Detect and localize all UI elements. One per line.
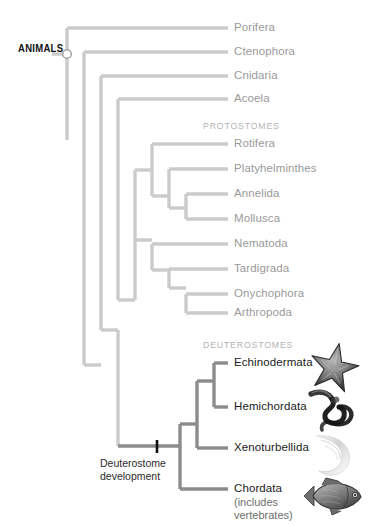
event-label-deuterostome-development-line2: development	[100, 470, 160, 483]
group-header-protostomes: PROTOSTOMES	[203, 121, 280, 131]
taxon-label-nematoda: Nematoda	[234, 237, 288, 249]
taxon-label-onychophora: Onychophora	[234, 287, 304, 299]
taxon-label-xenoturbellida: Xenoturbellida	[234, 441, 309, 453]
taxon-label-rotifera: Rotifera	[234, 137, 275, 149]
taxon-label-acoela: Acoela	[234, 92, 270, 104]
phylogenetic-tree-figure: ANIMALS PROTOSTOMES DEUTEROSTOMES Porife…	[0, 0, 370, 526]
taxon-sublabel-chordata-line1: (includes	[234, 496, 278, 509]
group-header-deuterostomes: DEUTEROSTOMES	[203, 340, 293, 350]
taxon-sublabel-chordata-line2: vertebrates)	[234, 509, 293, 522]
event-label-deuterostome-development-line1: Deuterostome	[100, 457, 166, 470]
organism-image-fish	[300, 474, 366, 520]
taxon-label-ctenophora: Ctenophora	[234, 45, 295, 57]
taxon-label-cnidaria: Cnidaria	[234, 69, 278, 81]
taxon-label-chordata: Chordata	[234, 482, 282, 494]
root-node-circle	[63, 50, 72, 59]
taxon-label-porifera: Porifera	[234, 21, 275, 33]
taxon-label-hemichordata: Hemichordata	[234, 400, 307, 412]
root-label-animals: ANIMALS	[18, 44, 63, 55]
taxon-label-platyhelminthes: Platyhelminthes	[234, 162, 317, 174]
taxon-label-tardigrada: Tardigrada	[234, 262, 289, 274]
taxon-label-arthropoda: Arthropoda	[234, 306, 292, 318]
taxon-label-mollusca: Mollusca	[234, 212, 280, 224]
taxon-label-echinodermata: Echinodermata	[234, 356, 313, 368]
branch-group-light	[52, 28, 228, 446]
taxon-label-annelida: Annelida	[234, 187, 280, 199]
